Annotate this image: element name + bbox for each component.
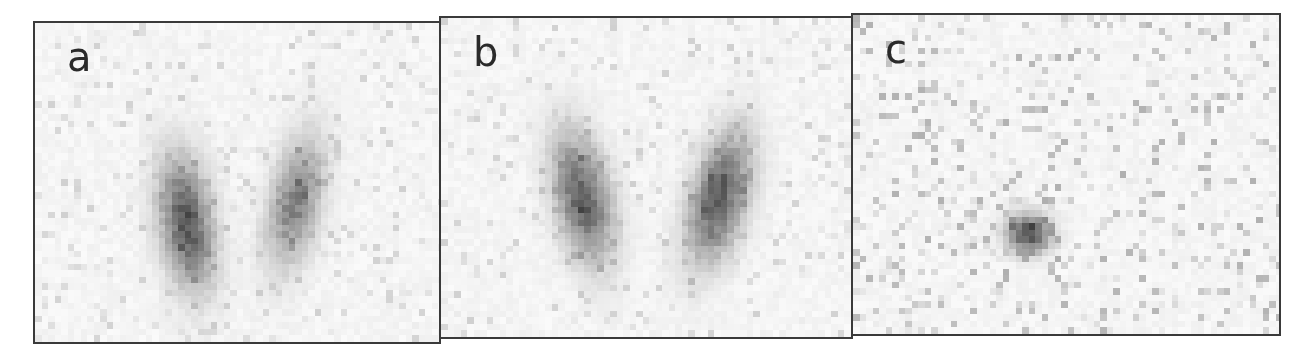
panel-label-a: a [67, 37, 92, 77]
panel-label-c: c [885, 29, 907, 69]
scan-image-c [853, 15, 1281, 336]
scintigraphy-figure: a b c [0, 0, 1309, 363]
panel-label-b: b [473, 32, 498, 72]
panel-c-scan: c [851, 13, 1281, 336]
scan-image-b [441, 18, 853, 339]
scan-image-a [35, 23, 441, 344]
panel-a-scan: a [33, 21, 441, 344]
panel-b-scan: b [439, 16, 853, 339]
